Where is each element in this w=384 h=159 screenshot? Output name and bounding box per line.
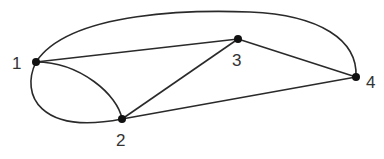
node-label-1: 1 xyxy=(12,54,21,73)
edge-1-2-upper xyxy=(36,62,122,119)
node-2 xyxy=(118,115,126,123)
edge-2-4 xyxy=(122,77,356,119)
edges xyxy=(31,11,356,122)
edge-3-4 xyxy=(238,39,356,77)
node-4 xyxy=(352,73,360,81)
node-label-3: 3 xyxy=(232,51,241,70)
node-label-2: 2 xyxy=(116,131,125,150)
node-3 xyxy=(234,35,242,43)
edge-1-3 xyxy=(36,39,238,62)
node-1 xyxy=(32,58,40,66)
node-label-4: 4 xyxy=(366,73,375,92)
nodes xyxy=(32,35,360,123)
graph-diagram: 1 2 3 4 xyxy=(0,0,384,159)
